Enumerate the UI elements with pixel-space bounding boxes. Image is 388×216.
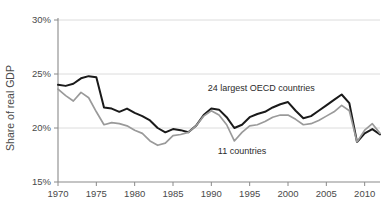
x-tick-label-1970: 1970 [47, 188, 68, 199]
chart-container: 15%20%25%30% 197019751980198519901995200… [0, 0, 388, 216]
x-tick-label-1990: 1990 [201, 188, 222, 199]
y-axis-title: Share of real GDP [4, 65, 16, 151]
x-tick-label-2000: 2000 [277, 188, 298, 199]
x-tick-label-1985: 1985 [162, 188, 183, 199]
x-tick-label-2005: 2005 [316, 188, 337, 199]
y-tick-label-25: 25% [32, 68, 52, 79]
line-chart: 15%20%25%30% 197019751980198519901995200… [0, 0, 388, 216]
x-tick-label-1980: 1980 [124, 188, 145, 199]
series-line-countries11 [58, 89, 380, 145]
y-tick-label-30: 30% [32, 14, 52, 25]
y-tick-label-15: 15% [32, 176, 52, 187]
axes-group [58, 18, 380, 182]
tick-marks-group [54, 20, 365, 186]
series-annotation-countries11: 11 countries [218, 146, 267, 156]
x-tick-labels-group: 197019751980198519901995200020052010 [47, 188, 375, 199]
series-annotations-group: 24 largest OECD countries11 countries [208, 83, 316, 156]
x-tick-label-1975: 1975 [86, 188, 107, 199]
series-annotation-oecd24: 24 largest OECD countries [208, 83, 316, 93]
gridlines-group [58, 20, 380, 128]
x-tick-label-1995: 1995 [239, 188, 260, 199]
y-tick-labels-group: 15%20%25%30% [32, 14, 52, 187]
x-tick-label-2010: 2010 [354, 188, 375, 199]
y-tick-label-20: 20% [32, 122, 52, 133]
